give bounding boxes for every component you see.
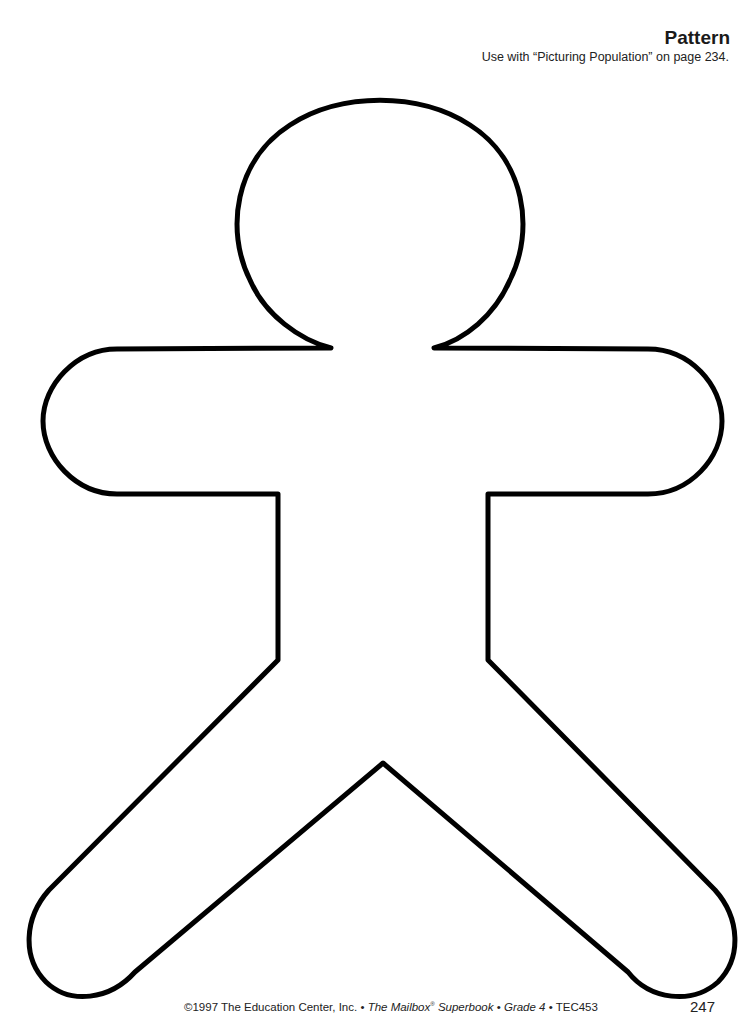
footer-book-title-2: Superbook (435, 1001, 494, 1013)
footer-grade: Grade 4 (504, 1001, 546, 1013)
footer-book-title: The Mailbox (368, 1001, 431, 1013)
footer-separator: • (546, 1001, 556, 1013)
footer-separator: • (494, 1001, 504, 1013)
footer-credit: ©1997 The Education Center, Inc. • The M… (184, 1001, 598, 1013)
footer-code: TEC453 (556, 1001, 598, 1013)
gingerbread-person-outline (0, 0, 752, 1036)
page-number: 247 (690, 998, 715, 1015)
footer-copyright: ©1997 The Education Center, Inc. • (184, 1001, 368, 1013)
